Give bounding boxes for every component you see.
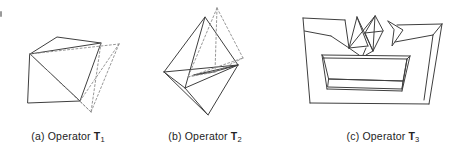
caption-prefix: (c) Operator: [346, 130, 405, 142]
figure-row: (a) OperatorT1: [0, 0, 470, 157]
octahedron-wireframe-icon: [156, 3, 256, 125]
cube-wireframe-icon: [15, 25, 140, 120]
caption-prefix: (b) Operator: [168, 130, 228, 142]
caption-operator-t2: (b) OperatorT2: [150, 130, 260, 146]
panel-operator-t3: (c) OperatorT3: [260, 0, 470, 157]
panel-operator-t1: (a) OperatorT1: [0, 0, 150, 157]
operator-subscript: 2: [237, 135, 241, 144]
panel-operator-t2: (b) OperatorT2: [150, 0, 260, 157]
caption-prefix: (a) Operator: [31, 130, 91, 142]
notched-block-wireframe-icon: [300, 10, 458, 110]
operator-subscript: 3: [415, 135, 419, 144]
caption-operator-t1: (a) OperatorT1: [12, 130, 124, 146]
operator-subscript: 1: [100, 135, 104, 144]
block-solid-edges: [303, 16, 442, 104]
caption-operator-t3: (c) OperatorT3: [326, 130, 440, 146]
